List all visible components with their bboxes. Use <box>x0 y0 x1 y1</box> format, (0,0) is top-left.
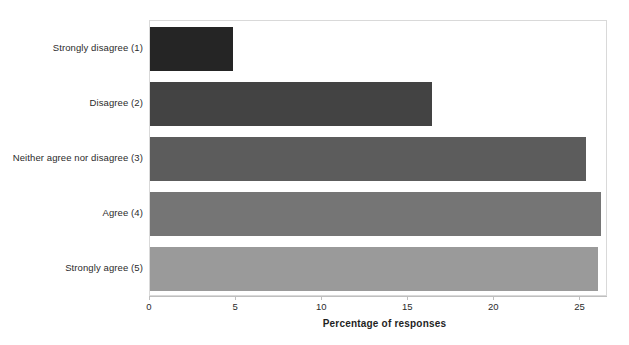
x-axis-tick-mark <box>407 296 408 300</box>
x-axis-tick-label: 20 <box>488 301 499 312</box>
x-axis-tick-mark <box>579 296 580 300</box>
bar-row <box>150 247 598 291</box>
bar-row <box>150 27 233 71</box>
y-axis-tick-label: Agree (4) <box>0 207 143 218</box>
bar-row <box>150 82 432 126</box>
bar-neither <box>150 137 586 181</box>
x-axis-line <box>149 296 607 297</box>
y-axis-tick-label: Disagree (2) <box>0 97 143 108</box>
x-axis-tick-mark <box>493 296 494 300</box>
x-axis-tick-label: 5 <box>232 301 237 312</box>
y-axis-tick-label: Strongly agree (5) <box>0 262 143 273</box>
bar-strongly-agree <box>150 247 598 291</box>
bar-chart: Strongly disagree (1) Disagree (2) Neith… <box>0 0 629 345</box>
x-axis-title-text: Percentage of responses <box>323 318 447 329</box>
y-axis-tick-label: Neither agree nor disagree (3) <box>0 152 143 163</box>
bar-row <box>150 137 586 181</box>
bar-disagree <box>150 82 432 126</box>
x-axis-tick-label: 10 <box>316 301 327 312</box>
bar-strongly-disagree <box>150 27 233 71</box>
bar-row <box>150 192 601 236</box>
x-axis-tick-mark <box>235 296 236 300</box>
x-axis-tick-label: 0 <box>146 301 151 312</box>
x-axis-title: Percentage of responses <box>0 318 629 329</box>
bar-agree <box>150 192 601 236</box>
y-axis-category-labels: Strongly disagree (1) Disagree (2) Neith… <box>0 20 143 296</box>
x-axis-tick-mark <box>149 296 150 300</box>
bars-layer <box>150 21 606 295</box>
plot-area <box>149 20 607 296</box>
x-axis-tick-label: 15 <box>402 301 413 312</box>
y-axis-tick-label: Strongly disagree (1) <box>0 42 143 53</box>
x-axis-tick-label: 25 <box>574 301 585 312</box>
x-axis-tick-mark <box>321 296 322 300</box>
